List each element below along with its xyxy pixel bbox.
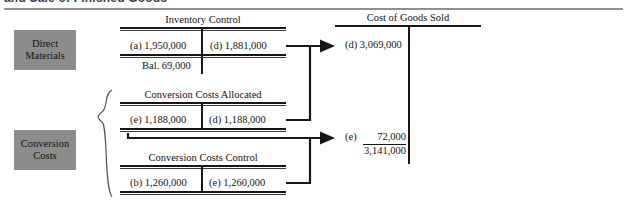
category-label-line1: Direct <box>32 38 58 51</box>
category-box-conversion-costs: Conversion Costs <box>14 130 76 170</box>
account-entry-rule <box>120 54 286 56</box>
cogs-debit-entry-e: 72,000 <box>358 131 406 142</box>
account-center-divider <box>201 28 203 74</box>
account-top-rule <box>120 165 286 167</box>
account-entry-rule <box>120 191 286 193</box>
account-credit-entry: (d) 1,188,000 <box>209 114 266 125</box>
account-center-divider <box>408 26 410 164</box>
account-top-rule-2 <box>120 30 286 31</box>
category-label-line2: Materials <box>25 50 65 63</box>
flow-line-allocated-debit-to-cogs <box>128 133 310 138</box>
account-top-rule <box>120 102 286 104</box>
account-debit-entry: (e) 1,188,000 <box>130 114 186 125</box>
category-label-line2: Costs <box>33 150 56 163</box>
account-entry-rule-2 <box>120 131 286 132</box>
account-balance: Bal. 69,000 <box>142 60 191 71</box>
t-account-diagram: and Sale of Finished Goods Direct Materi… <box>0 0 627 203</box>
account-entry-rule-2 <box>120 194 286 195</box>
account-top-rule <box>120 27 286 29</box>
account-title: Conversion Costs Allocated <box>120 89 286 100</box>
account-top-rule-2 <box>120 168 286 169</box>
cogs-total: 3,141,000 <box>345 145 406 156</box>
cogs-debit-ref-e: (e) <box>345 131 357 142</box>
account-title: Inventory Control <box>120 14 286 25</box>
connector-wires <box>0 0 627 203</box>
category-box-direct-materials: Direct Materials <box>14 30 76 70</box>
account-center-divider <box>201 103 203 128</box>
account-center-divider <box>201 166 203 191</box>
account-entry-rule <box>120 128 286 130</box>
category-label-line1: Conversion <box>21 138 69 151</box>
account-title: Cost of Goods Sold <box>335 12 481 23</box>
account-debit-entry: (b) 1,260,000 <box>130 177 187 188</box>
cut-off-heading: and Sale of Finished Goods <box>4 0 304 3</box>
flow-arrow-control-to-cogs <box>286 138 333 183</box>
account-title: Conversion Costs Control <box>120 152 286 163</box>
top-divider-rule <box>4 8 623 10</box>
conversion-costs-brace <box>98 90 112 197</box>
flow-line-allocated-to-cogs <box>286 46 310 120</box>
account-top-rule-2 <box>120 105 286 106</box>
account-credit-entry: (d) 1,881,000 <box>210 40 267 51</box>
account-credit-entry: (e) 1,260,000 <box>209 177 265 188</box>
account-debit-entry: (a) 1,950,000 <box>130 40 186 51</box>
cogs-debit-entry-d: (d) 3,069,000 <box>345 39 402 50</box>
account-entry-rule-2 <box>120 57 286 58</box>
